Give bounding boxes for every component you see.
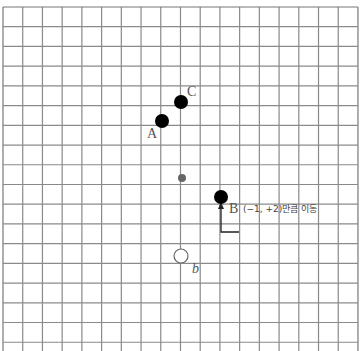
stone-C xyxy=(174,95,188,109)
stone-label-C: C xyxy=(187,84,196,99)
stone-B xyxy=(214,190,228,204)
go-board-diagram: ACBb (−1, +2)만큼 이동 xyxy=(0,0,363,351)
stone-label-A: A xyxy=(147,126,158,141)
stone-b xyxy=(174,249,188,263)
center-dot xyxy=(178,174,186,182)
move-annotation: (−1, +2)만큼 이동 xyxy=(243,204,317,214)
center-point xyxy=(178,174,186,182)
stone-label-b: b xyxy=(192,261,199,276)
stone-label-B: B xyxy=(229,201,238,216)
